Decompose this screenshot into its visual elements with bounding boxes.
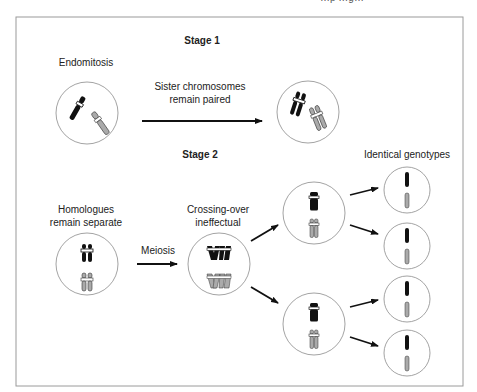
arrow-to-gamete-4	[350, 337, 378, 346]
header-clipped-text: …p …g…	[320, 0, 364, 3]
meiosis-label: Meiosis	[141, 244, 175, 257]
arrow-to-lower-dyad	[251, 287, 278, 303]
cell-gamete-4	[384, 330, 430, 376]
cell-gamete-1	[384, 167, 430, 213]
crossing-over-label-1: Crossing-over	[187, 203, 249, 216]
arrow-to-gamete-1	[350, 188, 378, 195]
cell-paired-sisters	[277, 81, 339, 143]
crossing-over-label-2: ineffectual	[195, 216, 240, 229]
sister-chromosomes-label-2: remain paired	[169, 93, 230, 106]
arrow-to-gamete-2	[350, 225, 378, 234]
cell-dyad-upper	[283, 182, 345, 244]
arrow-to-gamete-3	[350, 300, 378, 307]
stage1-title: Stage 1	[184, 34, 220, 47]
cell-endomitosis	[56, 82, 118, 144]
cell-homologues	[56, 233, 118, 295]
endomitosis-label: Endomitosis	[59, 56, 113, 69]
identical-genotypes-label: Identical genotypes	[364, 148, 450, 161]
stage2-title: Stage 2	[182, 148, 218, 161]
cell-gamete-2	[384, 223, 430, 269]
homologues-label-2: remain separate	[50, 216, 122, 229]
cell-crossing-over	[188, 233, 250, 295]
homologues-label-1: Homologues	[58, 203, 114, 216]
cell-gamete-3	[384, 276, 430, 322]
sister-chromosomes-label-1: Sister chromosomes	[154, 80, 245, 93]
arrow-to-upper-dyad	[251, 225, 278, 241]
cell-dyad-lower	[283, 293, 345, 355]
